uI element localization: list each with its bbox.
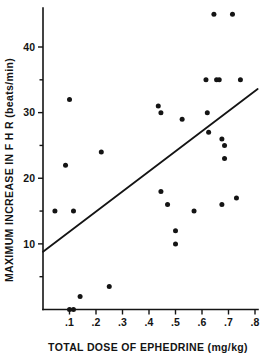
data-point: [173, 228, 178, 233]
data-point: [67, 97, 72, 102]
y-tick-label: 40: [23, 41, 35, 53]
data-point: [219, 202, 224, 207]
data-point: [217, 77, 222, 82]
plot-canvas: 10203040 .1.2.3.4.5.6.7.8 TOTAL DOSE OF …: [0, 0, 267, 357]
y-axis-title: MAXIMUM INCREASE IN F H R (beats/min): [3, 58, 15, 282]
y-axis-tick-labels: 10203040: [23, 41, 35, 250]
y-tick-label: 30: [23, 106, 35, 118]
y-tick-label: 10: [23, 238, 35, 250]
data-point: [192, 209, 197, 214]
scatter-plot-figure: 10203040 .1.2.3.4.5.6.7.8 TOTAL DOSE OF …: [0, 0, 267, 357]
regression-line: [43, 89, 258, 252]
x-tick-label: .3: [118, 316, 127, 328]
data-point: [165, 202, 170, 207]
x-tick-label: .7: [224, 316, 233, 328]
data-point: [234, 195, 239, 200]
data-point: [173, 241, 178, 246]
x-tick-label: .5: [171, 316, 180, 328]
data-point: [99, 150, 104, 155]
data-point: [206, 130, 211, 135]
x-tick-label: .6: [198, 316, 207, 328]
data-point: [222, 156, 227, 161]
data-point: [156, 104, 161, 109]
data-point: [71, 307, 76, 312]
x-axis-tick-labels: .1.2.3.4.5.6.7.8: [65, 316, 259, 328]
data-point: [158, 189, 163, 194]
x-axis-title: TOTAL DOSE OF EPHEDRINE (mg/kg): [48, 341, 248, 353]
x-tick-label: .8: [251, 316, 260, 328]
x-tick-label: .4: [145, 316, 154, 328]
data-point: [205, 110, 210, 115]
data-point: [222, 143, 227, 148]
data-point: [107, 284, 112, 289]
data-point: [238, 77, 243, 82]
data-point: [219, 136, 224, 141]
data-point: [230, 12, 235, 17]
data-point: [52, 209, 57, 214]
data-point: [180, 117, 185, 122]
data-point: [63, 163, 68, 168]
data-point: [211, 12, 216, 17]
data-point: [71, 209, 76, 214]
x-tick-label: .2: [92, 316, 101, 328]
data-point: [203, 77, 208, 82]
data-point: [158, 110, 163, 115]
y-tick-label: 20: [23, 172, 35, 184]
data-point: [78, 294, 83, 299]
x-tick-label: .1: [65, 316, 74, 328]
data-point-series: [52, 12, 243, 312]
